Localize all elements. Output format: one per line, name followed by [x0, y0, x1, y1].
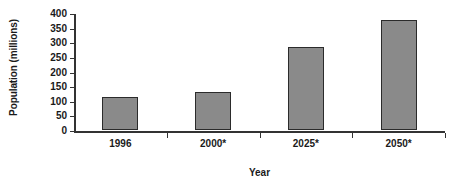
- bar: [195, 92, 231, 130]
- y-axis-tick-mark: [70, 14, 75, 15]
- y-axis-tick-label: 300: [50, 38, 67, 48]
- y-axis-title-label: Population (millions): [8, 19, 19, 116]
- bar-chart-figure: Population (millions) 050100150200250300…: [0, 0, 466, 196]
- y-axis-tick-mark: [70, 102, 75, 103]
- y-axis-tick-mark: [70, 29, 75, 30]
- y-axis-tick-mark: [70, 87, 75, 88]
- x-axis-title: Year: [74, 167, 445, 178]
- x-axis-title-label: Year: [249, 167, 270, 178]
- y-axis-tick-label: 150: [50, 82, 67, 92]
- x-axis-tick-labels: 19962000*2025*2050*: [74, 138, 445, 152]
- y-axis-tick-mark: [70, 131, 75, 132]
- x-axis-tick-mark: [445, 133, 446, 138]
- y-axis-tick-label: 350: [50, 24, 67, 34]
- y-axis-tick-mark: [70, 116, 75, 117]
- y-axis-tick-mark: [70, 58, 75, 59]
- x-axis-tick-label: 2025*: [260, 138, 353, 150]
- x-axis-tick-label: 2050*: [352, 138, 445, 150]
- x-axis-tick-label: 2000*: [167, 138, 260, 150]
- bar: [288, 47, 324, 130]
- bar: [102, 97, 138, 130]
- y-axis-tick-label: 400: [50, 9, 67, 19]
- y-axis-tick-label: 250: [50, 53, 67, 63]
- x-axis-tick-label: 1996: [74, 138, 167, 150]
- y-axis-tick-label: 200: [50, 68, 67, 78]
- y-axis-tick-label: 50: [56, 111, 67, 121]
- y-axis-tick-labels: 050100150200250300350400: [26, 9, 70, 135]
- bar: [381, 20, 417, 130]
- y-axis-tick-mark: [70, 43, 75, 44]
- y-axis-tick-label: 100: [50, 97, 67, 107]
- plot-area: [74, 14, 445, 131]
- y-axis-tick-label: 0: [61, 126, 67, 136]
- y-axis-title: Population (millions): [0, 0, 26, 134]
- y-axis-tick-mark: [70, 73, 75, 74]
